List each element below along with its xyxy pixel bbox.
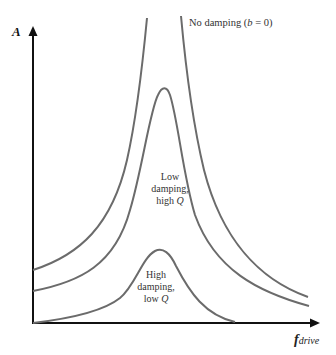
label-low-damping: Low damping, high Q xyxy=(140,171,200,207)
x-axis xyxy=(32,319,320,328)
y-axis xyxy=(29,26,38,324)
label-high-damping: High damping, low Q xyxy=(126,269,186,305)
y-axis-arrow-icon xyxy=(29,26,38,36)
y-axis-label: A xyxy=(12,24,21,40)
x-axis-label: fdrive xyxy=(294,332,319,348)
curve-no-damping xyxy=(33,16,308,297)
x-axis-arrow-icon xyxy=(310,319,320,328)
label-no-damping: No damping (b = 0) xyxy=(189,17,273,29)
x-axis-label-sub: drive xyxy=(299,335,320,346)
resonance-diagram: A fdrive No damping (b = 0) Low damping,… xyxy=(0,0,336,355)
